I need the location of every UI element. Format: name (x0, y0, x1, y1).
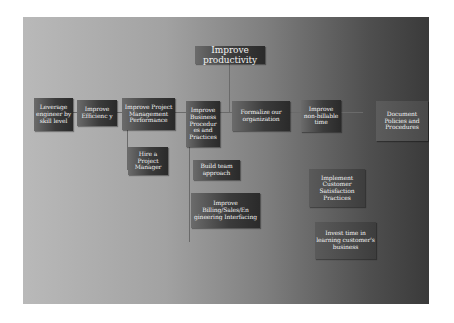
connector-root-vertical (229, 64, 230, 113)
node-project-management-performance: Improve Project Management Performance (122, 98, 175, 130)
node-label: Implement Customer Satisfaction Practice… (310, 175, 364, 202)
node-label: Document Policies and Procedures (377, 111, 427, 131)
node-root: Improve productivity (195, 46, 265, 64)
node-document-policies: Document Policies and Procedures (376, 101, 428, 141)
node-root-label: Improve productivity (196, 45, 264, 65)
connector-business-vertical (189, 146, 190, 242)
node-label: Improve non-billable time (302, 106, 340, 126)
node-business-procedures: Improve Business Procedur es and Practic… (186, 101, 220, 147)
node-hire-project-manager: Hire a Project Manager (128, 147, 168, 175)
node-label: Build team approach (194, 163, 239, 176)
node-label: Improve Billing/Sales/En gineering Inter… (192, 200, 259, 220)
node-label: Improve Efficienc y (78, 106, 116, 119)
node-label: Leverage engineer by skill level (35, 104, 72, 124)
node-label: Improve Business Procedur es and Practic… (187, 107, 219, 141)
node-non-billable-time: Improve non-billable time (301, 100, 341, 132)
node-improve-efficiency: Improve Efficienc y (77, 100, 117, 126)
node-label: Invest time in learning customer's busin… (316, 230, 375, 250)
node-label: Improve Project Management Performance (123, 104, 174, 124)
node-label: Formalize our organization (233, 109, 289, 122)
node-label: Hire a Project Manager (129, 151, 167, 171)
node-leverage-engineer: Leverage engineer by skill level (34, 98, 73, 131)
node-learn-customer-business: Invest time in learning customer's busin… (315, 222, 376, 259)
node-billing-sales-engineering: Improve Billing/Sales/En gineering Inter… (191, 193, 260, 228)
node-formalize-organization: Formalize our organization (232, 101, 290, 131)
node-build-team-approach: Build team approach (193, 160, 240, 180)
node-customer-satisfaction: Implement Customer Satisfaction Practice… (309, 169, 365, 207)
diagram-slide: Improve productivity Leverage engineer b… (23, 17, 429, 304)
